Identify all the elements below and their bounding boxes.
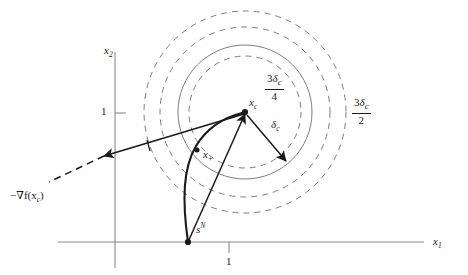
optimization-trust-region-diagram: x2 1 x1 1 xc x+ δc −∇f(xc) sN 3δc 4 3δc … [0, 0, 468, 275]
x-plus-point-dot [195, 148, 200, 153]
newton-step-label: sN [196, 222, 205, 235]
axes-group [58, 52, 424, 268]
diagram-canvas [0, 0, 468, 275]
delta-c-vector [247, 115, 286, 161]
y-axis-tick-label: 1 [101, 106, 107, 117]
neg-gradient-dashed-extension [49, 156, 104, 182]
x-axis-tick-label: 1 [226, 256, 232, 267]
radius-3-delta-c-over-2-label: 3δc 2 [352, 97, 371, 126]
neg-gradient-label: −∇f(xc) [10, 190, 44, 204]
y-axis-label: x2 [104, 45, 113, 59]
radius-3-delta-c-over-4-label: 3δc 4 [265, 73, 284, 102]
delta-c-vector-label: δc [271, 119, 279, 133]
x-plus-point-label: x+ [203, 149, 213, 163]
newton-point-dot [185, 239, 191, 245]
x-axis-label: x1 [433, 236, 442, 250]
x-c-point-dot [242, 109, 248, 115]
x-c-point-label: xc [249, 97, 257, 111]
